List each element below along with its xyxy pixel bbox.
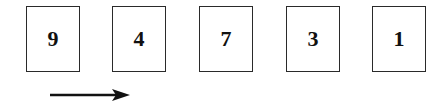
number-card-2: 4 xyxy=(112,6,166,72)
number-card-4: 3 xyxy=(286,6,340,72)
number-card-1: 9 xyxy=(26,6,80,72)
number-card-5: 1 xyxy=(372,6,426,72)
right-arrow-icon xyxy=(50,88,132,102)
card-value: 1 xyxy=(394,26,405,52)
card-value: 4 xyxy=(134,26,145,52)
card-value: 7 xyxy=(221,26,232,52)
card-value: 9 xyxy=(48,26,59,52)
number-card-3: 7 xyxy=(199,6,253,72)
card-value: 3 xyxy=(308,26,319,52)
